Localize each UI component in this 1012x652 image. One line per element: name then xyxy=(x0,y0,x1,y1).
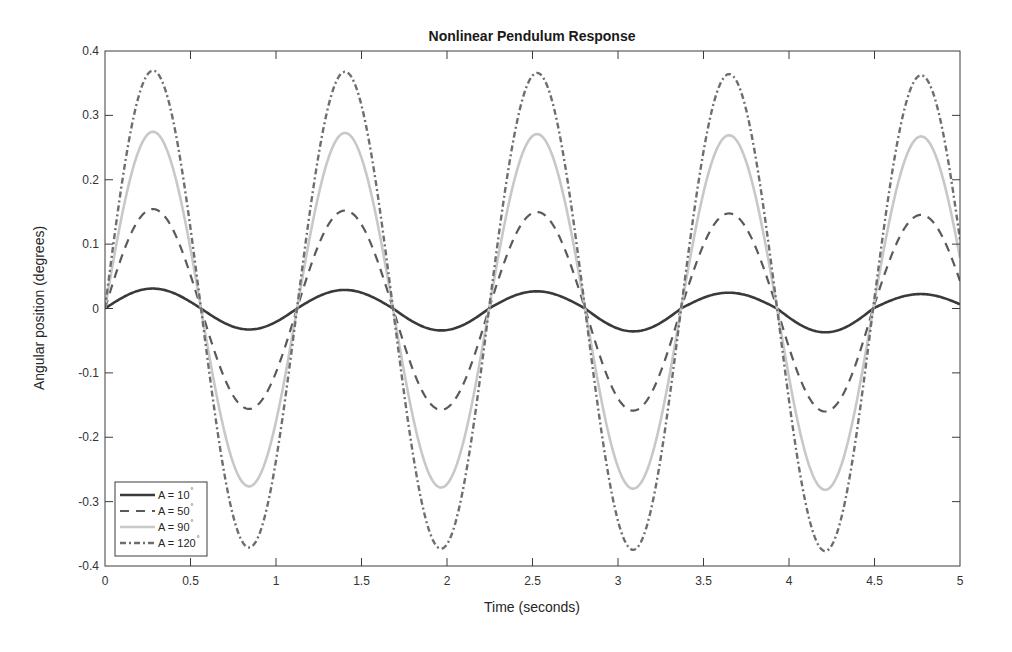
legend: A = 10°A = 50°A = 90°A = 120° xyxy=(115,482,207,556)
legend-label: A = 90 xyxy=(158,521,190,533)
y-tick-label: -0.2 xyxy=(78,430,99,444)
y-tick-label: 0.2 xyxy=(82,173,99,187)
x-tick-label: 4 xyxy=(786,574,793,588)
degree-symbol: ° xyxy=(197,535,200,542)
x-tick-label: 1.5 xyxy=(353,574,370,588)
y-tick-label: 0.1 xyxy=(82,237,99,251)
x-tick-label: 3 xyxy=(615,574,622,588)
chart-figure: Nonlinear Pendulum Response 00.511.522.5… xyxy=(0,0,1012,652)
x-tick-label: 3.5 xyxy=(695,574,712,588)
x-tick-label: 0.5 xyxy=(182,574,199,588)
legend-label: A = 10 xyxy=(158,489,190,501)
x-tick-label: 1 xyxy=(273,574,280,588)
y-axis-label: Angular position (degrees) xyxy=(31,226,47,390)
y-tick-label: -0.3 xyxy=(78,495,99,509)
x-tick-label: 2.5 xyxy=(524,574,541,588)
x-tick-label: 0 xyxy=(102,574,109,588)
degree-symbol: ° xyxy=(191,503,194,510)
line-chart: Nonlinear Pendulum Response 00.511.522.5… xyxy=(0,0,1012,652)
y-tick-label: 0 xyxy=(92,302,99,316)
x-tick-label: 2 xyxy=(444,574,451,588)
x-axis-label: Time (seconds) xyxy=(484,599,580,615)
degree-symbol: ° xyxy=(191,519,194,526)
y-tick-label: -0.4 xyxy=(78,559,99,573)
y-tick-label: 0.3 xyxy=(82,108,99,122)
y-tick-label: -0.1 xyxy=(78,366,99,380)
chart-title: Nonlinear Pendulum Response xyxy=(429,28,636,44)
legend-label: A = 50 xyxy=(158,505,190,517)
x-tick-label: 5 xyxy=(957,574,964,588)
y-tick-label: 0.4 xyxy=(82,44,99,58)
degree-symbol: ° xyxy=(191,487,194,494)
legend-label: A = 120 xyxy=(158,537,196,549)
x-tick-label: 4.5 xyxy=(866,574,883,588)
